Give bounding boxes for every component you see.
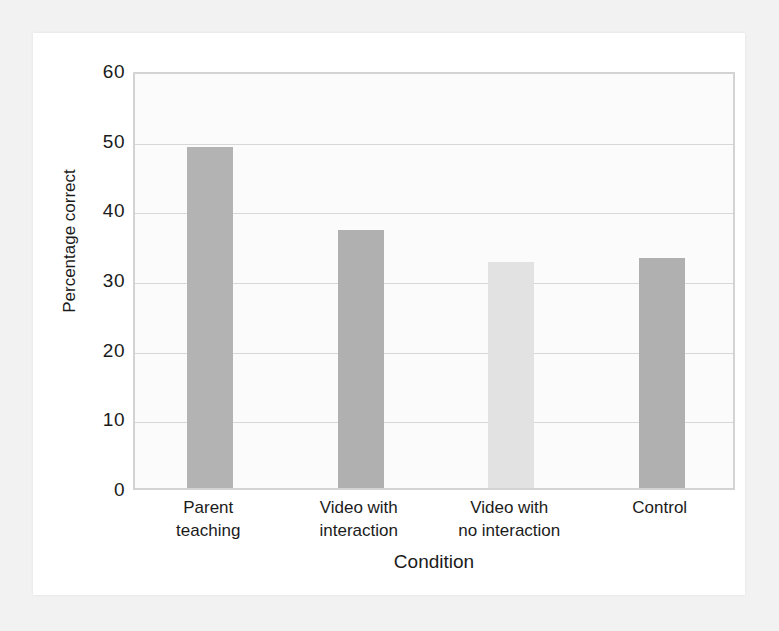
y-tick-label-0: 0: [79, 479, 125, 501]
x-tick-label-line: Control: [585, 496, 735, 519]
figure-card: Percentage correct 0102030405060 Parentt…: [33, 33, 745, 595]
x-axis-tick-labels: ParentteachingVideo withinteractionVideo…: [133, 496, 735, 552]
bar-1: [187, 147, 233, 488]
y-tick-label-20: 20: [79, 340, 125, 362]
x-tick-label-line: no interaction: [434, 519, 584, 542]
y-tick-label-50: 50: [79, 131, 125, 153]
x-tick-label-line: teaching: [133, 519, 283, 542]
y-tick-label-40: 40: [79, 200, 125, 222]
bar-series: [135, 74, 733, 488]
x-tick-label-2: Video withinteraction: [284, 496, 434, 542]
x-tick-label-line: Video with: [434, 496, 584, 519]
y-tick-label-30: 30: [79, 270, 125, 292]
y-axis-tick-labels: 0102030405060: [69, 72, 125, 490]
x-axis-title: Condition: [133, 551, 735, 573]
x-tick-label-line: interaction: [284, 519, 434, 542]
x-tick-label-4: Control: [585, 496, 735, 519]
y-tick-label-60: 60: [79, 61, 125, 83]
x-tick-label-1: Parentteaching: [133, 496, 283, 542]
plot-area: [133, 72, 735, 490]
x-tick-label-line: Parent: [133, 496, 283, 519]
x-tick-label-3: Video withno interaction: [434, 496, 584, 542]
bar-4: [639, 258, 685, 488]
bar-2: [338, 230, 384, 488]
y-tick-label-10: 10: [79, 409, 125, 431]
bar-3: [488, 262, 534, 488]
x-tick-label-line: Video with: [284, 496, 434, 519]
